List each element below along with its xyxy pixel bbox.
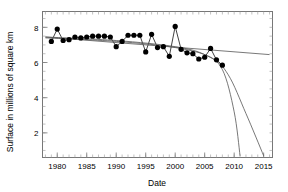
data-point: [137, 33, 142, 38]
y-axis-tick-labels: 2468: [34, 24, 39, 139]
data-point: [178, 47, 183, 52]
data-point: [149, 32, 154, 37]
data-point: [202, 55, 207, 60]
data-point: [49, 39, 54, 44]
data-point: [120, 39, 125, 44]
data-point: [143, 49, 148, 54]
data-point: [55, 26, 60, 31]
data-point: [214, 57, 219, 62]
data-point: [114, 44, 119, 49]
data-point: [84, 34, 89, 39]
data-point: [108, 34, 113, 39]
data-point: [220, 63, 225, 68]
data-point: [208, 46, 213, 51]
x-tick-label: 2000: [166, 162, 184, 171]
x-tick-label: 1980: [48, 162, 66, 171]
data-point: [184, 50, 189, 55]
x-tick-label: 1985: [78, 162, 96, 171]
data-point: [196, 56, 201, 61]
x-tick-label: 1990: [107, 162, 125, 171]
data-point: [125, 33, 130, 38]
data-point: [155, 45, 160, 50]
data-point: [167, 54, 172, 59]
data-point: [173, 24, 178, 29]
data-point: [66, 37, 71, 42]
data-point: [131, 33, 136, 38]
chart-container: 19801985199019952000200520102015 2468 Da…: [0, 0, 288, 192]
x-tick-label: 2015: [255, 162, 273, 171]
x-axis-ticks: [57, 153, 263, 158]
x-tick-label: 2005: [196, 162, 214, 171]
data-point: [72, 34, 77, 39]
x-axis-title: Date: [148, 178, 166, 188]
y-tick-label: 2: [34, 129, 39, 138]
data-point: [96, 34, 101, 39]
data-point: [78, 35, 83, 40]
x-tick-label: 2010: [225, 162, 243, 171]
projection-curve: [45, 37, 240, 156]
y-tick-label: 4: [34, 94, 39, 103]
data-point: [61, 38, 66, 43]
y-tick-label: 8: [34, 24, 39, 33]
x-tick-label: 1995: [137, 162, 155, 171]
data-point: [190, 51, 195, 56]
data-point: [90, 34, 95, 39]
y-tick-label: 6: [34, 59, 39, 68]
data-point: [161, 44, 166, 49]
data-points-layer: [49, 24, 225, 68]
y-axis-title: Surface in millions of square km: [5, 32, 15, 152]
x-axis-tick-labels: 19801985199019952000200520102015: [48, 162, 273, 171]
sea-ice-extent-chart: 19801985199019952000200520102015 2468 Da…: [0, 0, 288, 192]
data-point: [102, 34, 107, 39]
